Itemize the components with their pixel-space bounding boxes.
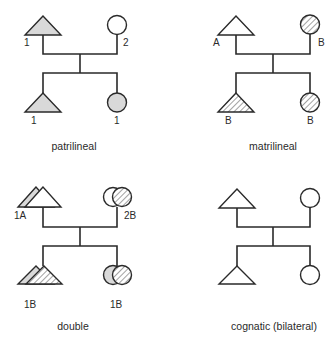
son-triangle-icon: [25, 93, 61, 112]
father-triangle-icon: [218, 16, 254, 35]
caption-patrilineal: patrilineal: [52, 140, 97, 152]
father-triangle-icon: [25, 16, 61, 35]
mother-label: 2: [123, 37, 129, 48]
caption-double: double: [57, 320, 89, 332]
son-triangle-icon: [219, 266, 255, 284]
marriage-line: [43, 35, 117, 54]
marriage-line: [236, 34, 310, 54]
son-label: 1B: [24, 299, 37, 310]
father-triangle-icon: [219, 189, 255, 208]
panel-cognatic: cognatic (bilateral): [219, 189, 320, 333]
daughter-label: 1: [114, 115, 120, 126]
daughter-circle-icon: [301, 266, 320, 285]
son-triangle-icon: [218, 93, 254, 112]
panel-double: 1A 2B 1B 1B double: [14, 187, 137, 332]
marriage-line: [43, 207, 117, 227]
daughter-circle-icon: [108, 93, 127, 112]
panel-patrilineal: 1 2 1 1 patrilineal: [24, 16, 129, 153]
descent-diagram: 1 2 1 1 patrilineal A B B B matrilineal …: [0, 0, 332, 342]
father-label: 1: [24, 37, 30, 48]
daughter-circle-icon: [113, 266, 132, 285]
mother-label: B: [318, 37, 325, 48]
mother-label: 2B: [124, 210, 137, 221]
son-label: B: [225, 115, 232, 126]
daughter-label: B: [307, 115, 314, 126]
mother-circle-icon: [108, 16, 127, 35]
mother-circle-icon: [113, 188, 132, 207]
marriage-line: [237, 207, 310, 227]
daughter-circle-icon: [301, 93, 320, 112]
father-label: 1A: [14, 210, 27, 221]
caption-matrilineal: matrilineal: [249, 140, 297, 152]
sibling-line: [236, 73, 310, 93]
son-label: 1: [31, 115, 37, 126]
sibling-line: [43, 73, 117, 93]
sibling-line: [237, 246, 310, 266]
caption-cognatic: cognatic (bilateral): [231, 320, 317, 332]
mother-circle-icon: [301, 189, 320, 208]
father-label: A: [213, 37, 220, 48]
mother-circle-icon: [301, 15, 320, 34]
daughter-label: 1B: [110, 299, 123, 310]
panel-matrilineal: A B B B matrilineal: [213, 15, 325, 152]
sibling-line: [43, 246, 117, 266]
